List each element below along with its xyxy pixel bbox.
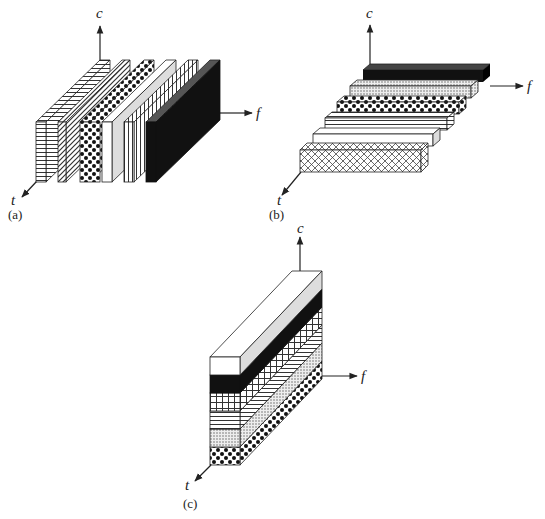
caption-b: (b) [269, 207, 284, 222]
c-axis-label-b: c [366, 5, 373, 21]
f-axis-label-a: f [256, 105, 262, 121]
f-axis-label-b: f [527, 78, 533, 94]
bar-checker-dots [337, 96, 466, 114]
f-axis-label-c: f [361, 368, 367, 384]
t-axis-arrow-b [282, 172, 301, 195]
t-axis-arrow-a [22, 181, 37, 197]
caption-c: (c) [183, 496, 197, 511]
bar-crosshatch [300, 143, 428, 172]
panel-a: c f t (a) [8, 5, 262, 222]
bar-horizontal-lines [325, 112, 454, 130]
c-axis-label-a: c [96, 5, 103, 21]
t-axis-arrow-c [195, 465, 211, 481]
caption-a: (a) [8, 207, 22, 222]
bar-fine-dots [350, 80, 478, 98]
t-axis-label-a: t [11, 192, 16, 208]
panel-c: c f t (c) [183, 220, 367, 511]
panel-b: c f t (b) [269, 5, 533, 222]
bar-solid-black [363, 64, 490, 82]
t-axis-label-c: t [185, 477, 190, 493]
t-axis-label-b: t [277, 192, 282, 208]
c-axis-label-c: c [297, 220, 304, 236]
figure-canvas: c f t (a) [0, 0, 545, 519]
